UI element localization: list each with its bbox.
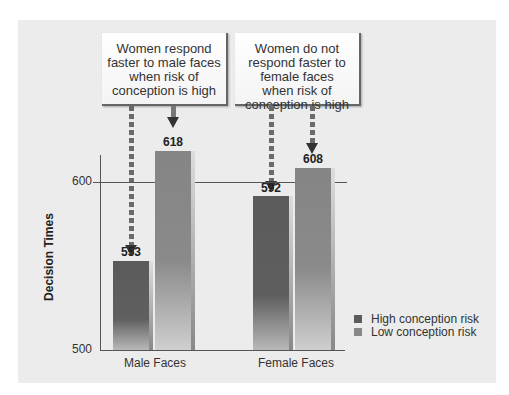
legend-label-low: Low conception risk bbox=[371, 325, 476, 339]
dashed-arrow-male-high bbox=[129, 106, 134, 246]
y-axis bbox=[100, 155, 101, 351]
bar-female-low bbox=[295, 168, 331, 350]
legend-swatch-high bbox=[354, 315, 362, 323]
value-male-high: 553 bbox=[111, 245, 151, 259]
y-axis-label: Decision Times bbox=[42, 202, 56, 312]
bar-shadow bbox=[331, 168, 335, 350]
bar-shadow bbox=[191, 151, 195, 350]
dashed-arrow-female-high bbox=[269, 106, 274, 182]
callout-male: Women respond faster to male faces when … bbox=[102, 33, 228, 106]
legend: High conception risk Low conception risk bbox=[354, 312, 479, 338]
dashed-arrow-female-low bbox=[310, 106, 315, 145]
value-female-low: 608 bbox=[293, 152, 333, 166]
legend-label-high: High conception risk bbox=[371, 312, 479, 326]
bar-female-high bbox=[253, 196, 289, 350]
legend-item-high: High conception risk bbox=[354, 312, 479, 325]
x-category-female: Female Faces bbox=[258, 356, 334, 370]
callout-female: Women do not respond faster to female fa… bbox=[235, 33, 361, 106]
value-female-high: 592 bbox=[251, 181, 291, 195]
callout-male-text: Women respond faster to male faces when … bbox=[107, 41, 220, 98]
bar-shadow bbox=[289, 196, 293, 350]
legend-item-low: Low conception risk bbox=[354, 325, 479, 338]
x-category-male: Male Faces bbox=[124, 356, 186, 370]
value-male-low: 618 bbox=[153, 135, 193, 149]
legend-swatch-low bbox=[354, 328, 362, 336]
y-tick-600: 600 bbox=[72, 174, 92, 188]
bar-shadow bbox=[149, 261, 153, 350]
bar-male-low bbox=[155, 151, 191, 350]
arrowhead-male-low bbox=[167, 117, 179, 128]
callout-female-text: Women do not respond faster to female fa… bbox=[245, 41, 349, 112]
x-axis bbox=[100, 350, 345, 351]
bar-male-high bbox=[113, 261, 149, 350]
y-tick-500: 500 bbox=[72, 342, 92, 356]
